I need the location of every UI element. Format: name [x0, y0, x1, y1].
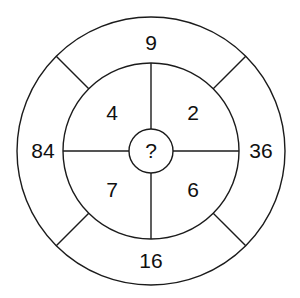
outer-value-left: 84	[31, 139, 55, 162]
middle-value-top-right: 2	[187, 101, 199, 124]
outer-value-bottom: 16	[139, 249, 162, 272]
middle-value-bottom-left: 7	[106, 178, 118, 201]
outer-value-right: 36	[249, 139, 272, 162]
outer-value-top: 9	[145, 31, 157, 54]
puzzle-figure: 9 36 16 84 4 2 6 7 ?	[0, 0, 300, 298]
middle-value-top-left: 4	[106, 101, 118, 124]
center-value: ?	[145, 139, 157, 162]
middle-value-bottom-right: 6	[187, 178, 199, 201]
puzzle-diagram: 9 36 16 84 4 2 6 7 ?	[0, 0, 300, 298]
